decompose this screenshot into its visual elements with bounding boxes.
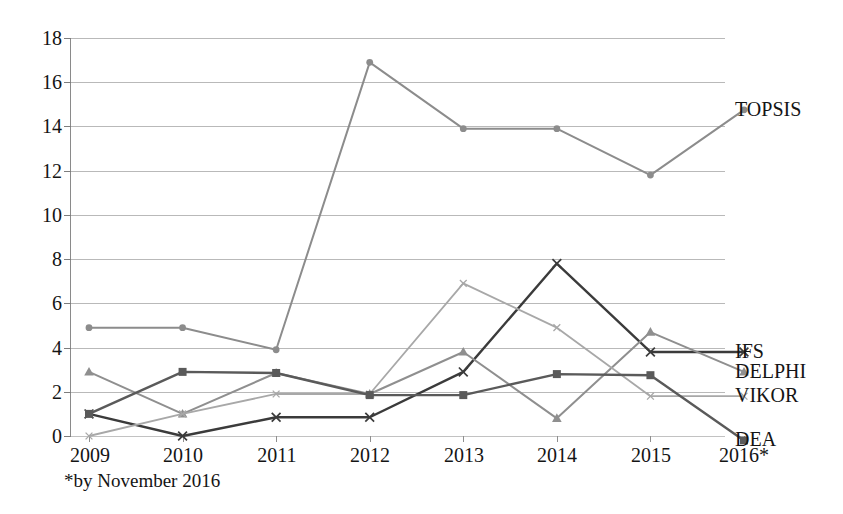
data-point-marker-square (646, 371, 654, 379)
data-point-marker-circle (366, 59, 373, 66)
data-point-marker-cross-small (460, 280, 467, 287)
data-point-marker-circle (647, 172, 654, 179)
series-label-vikor: VIKOR (735, 385, 798, 405)
data-point-marker-cross (459, 367, 468, 376)
data-point-marker-square (366, 391, 374, 399)
series-vikor (86, 280, 748, 439)
series-line-vikor (89, 283, 744, 436)
series-label-dea: DEA (735, 429, 776, 449)
series-layer (0, 0, 843, 514)
data-point-marker-triangle (646, 327, 656, 336)
data-point-marker-cross-small (553, 324, 560, 331)
data-point-marker-square (85, 410, 93, 418)
data-point-marker-triangle (458, 347, 468, 356)
series-topsis (86, 59, 748, 353)
series-line-dea (89, 372, 744, 441)
data-point-marker-circle (553, 125, 560, 132)
data-point-marker-square (553, 370, 561, 378)
data-point-marker-circle (460, 125, 467, 132)
data-point-marker-square (272, 369, 280, 377)
series-line-ifs (89, 264, 744, 436)
line-chart: 18 16 14 12 10 8 6 4 2 0 2009 2010 2011 … (0, 0, 843, 514)
series-label-topsis: TOPSIS (735, 99, 801, 119)
data-point-marker-cross (552, 259, 561, 268)
data-point-marker-square (459, 391, 467, 399)
series-label-ifs: IFS (735, 341, 764, 361)
data-point-marker-circle (86, 324, 93, 331)
series-label-delphi: DELPHI (735, 361, 806, 381)
data-point-marker-triangle (84, 367, 94, 376)
data-point-marker-square (179, 368, 187, 376)
data-point-marker-circle (179, 324, 186, 331)
footnote: *by November 2016 (64, 470, 220, 492)
data-point-marker-circle (273, 346, 280, 353)
series-line-topsis (89, 62, 744, 349)
